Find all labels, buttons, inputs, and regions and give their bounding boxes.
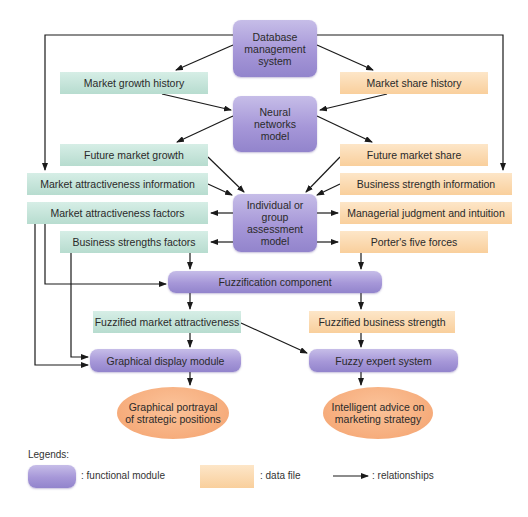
porters-five-forces-data: Porter's five forces xyxy=(340,231,488,253)
fuzzification-label: Fuzzification component xyxy=(218,276,331,288)
market-attractiveness-information-label: Market attractiveness information xyxy=(40,178,195,190)
porters-five-forces-label: Porter's five forces xyxy=(371,236,458,248)
neural-label: Neural networks model xyxy=(233,106,317,142)
business-strength-information-label: Business strength information xyxy=(357,178,495,190)
fuzzified-business-strength-label: Fuzzified business strength xyxy=(318,316,445,328)
graphical-portrayal-output: Graphical portrayal of strategic positio… xyxy=(117,387,229,439)
market-share-history-label: Market share history xyxy=(366,77,461,89)
graphical-portrayal-label: Graphical portrayal of strategic positio… xyxy=(117,401,229,425)
assessment-label: Individual or group assessment model xyxy=(233,199,317,247)
fuzzy-expert-label: Fuzzy expert system xyxy=(335,355,431,367)
assessment-model-module: Individual or group assessment model xyxy=(233,194,317,252)
intelligent-advice-label: Intelligent advice on marketing strategy xyxy=(323,401,433,425)
fuzzified-market-attractiveness-label: Fuzzified market attractiveness xyxy=(95,316,240,328)
business-strength-information-data: Business strength information xyxy=(340,173,512,195)
neural-networks-model-module: Neural networks model xyxy=(233,96,317,152)
graphical-display-label: Graphical display module xyxy=(107,355,225,367)
fuzzification-component-module: Fuzzification component xyxy=(168,271,382,293)
future-market-growth-data: Future market growth xyxy=(60,144,208,166)
managerial-judgment-data: Managerial judgment and intuition xyxy=(340,202,512,224)
market-growth-history-label: Market growth history xyxy=(84,77,184,89)
legend-functional-module-label: : functional module xyxy=(81,470,165,481)
future-market-growth-label: Future market growth xyxy=(84,149,184,161)
fuzzy-expert-system-module: Fuzzy expert system xyxy=(309,349,458,372)
market-attractiveness-factors-data: Market attractiveness factors xyxy=(27,202,208,224)
database-label: Database management system xyxy=(233,31,317,67)
managerial-judgment-label: Managerial judgment and intuition xyxy=(347,207,505,219)
business-strengths-factors-data: Business strengths factors xyxy=(60,231,208,253)
database-management-system-module: Database management system xyxy=(233,20,317,77)
market-attractiveness-information-data: Market attractiveness information xyxy=(27,173,208,195)
legend-relationships-label: : relationships xyxy=(372,470,434,481)
legend-functional-module-swatch xyxy=(28,465,76,488)
legend-data-file-label: : data file xyxy=(260,470,301,481)
legend-data-file-swatch xyxy=(200,465,254,488)
intelligent-advice-output: Intelligent advice on marketing strategy xyxy=(323,387,433,439)
market-share-history-data: Market share history xyxy=(340,72,488,94)
graphical-display-module: Graphical display module xyxy=(90,349,241,372)
diagram-canvas: Database management system Neural networ… xyxy=(0,0,528,517)
market-growth-history-data: Market growth history xyxy=(60,72,208,94)
market-attractiveness-factors-label: Market attractiveness factors xyxy=(50,207,184,219)
fuzzified-market-attractiveness-data: Fuzzified market attractiveness xyxy=(93,311,241,333)
fuzzified-business-strength-data: Fuzzified business strength xyxy=(309,311,455,333)
business-strengths-factors-label: Business strengths factors xyxy=(72,236,195,248)
legend-title: Legends: xyxy=(28,449,69,460)
future-market-share-label: Future market share xyxy=(367,149,462,161)
future-market-share-data: Future market share xyxy=(340,144,488,166)
